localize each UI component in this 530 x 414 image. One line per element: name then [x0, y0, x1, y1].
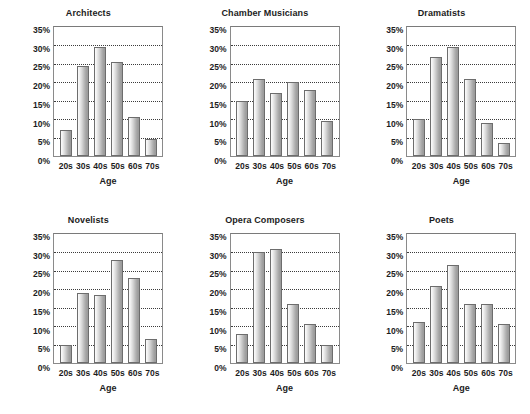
y-axis-tick-labels: 0%5%10%15%20%25%30%35%: [189, 226, 227, 371]
y-axis-tick-label: 35%: [12, 233, 50, 242]
bar: [145, 139, 157, 156]
y-axis-tick-label: 0%: [365, 157, 403, 166]
x-axis-tick-label: 50s: [287, 368, 299, 378]
bar-group: [231, 234, 339, 363]
bar: [430, 286, 442, 363]
bar: [128, 278, 140, 363]
chart-panel: Architects0%5%10%15%20%25%30%35%20s30s40…: [0, 0, 177, 207]
x-axis-tick-labels: 20s30s40s50s60s70s: [406, 161, 516, 171]
x-axis-tick-labels: 20s30s40s50s60s70s: [230, 368, 340, 378]
panel-title: Architects: [0, 8, 177, 18]
bar-group: [407, 27, 515, 156]
y-axis-tick-label: 25%: [365, 63, 403, 72]
y-axis-tick-label: 25%: [12, 270, 50, 279]
y-axis-tick-label: 20%: [12, 289, 50, 298]
x-axis-title: Age: [53, 176, 163, 186]
y-axis-tick-label: 5%: [365, 345, 403, 354]
y-axis-tick-label: 25%: [189, 63, 227, 72]
bar: [464, 79, 476, 156]
y-axis-tick-labels: 0%5%10%15%20%25%30%35%: [365, 226, 403, 371]
bar: [304, 324, 316, 363]
x-axis-tick-label: 40s: [93, 368, 105, 378]
y-axis-tick-label: 15%: [12, 308, 50, 317]
x-axis-tick-label: 60s: [481, 161, 493, 171]
bar: [481, 304, 493, 363]
bar: [498, 143, 510, 156]
x-axis-tick-label: 70s: [322, 161, 334, 171]
y-axis-tick-label: 20%: [189, 82, 227, 91]
panel-title: Novelists: [0, 215, 177, 225]
bar: [145, 339, 157, 363]
y-axis-tick-label: 30%: [189, 45, 227, 54]
x-axis-tick-label: 70s: [498, 161, 510, 171]
y-axis-tick-label: 5%: [189, 345, 227, 354]
y-axis-tick-label: 20%: [12, 82, 50, 91]
x-axis-tick-label: 20s: [235, 368, 247, 378]
plot-area: [230, 233, 340, 364]
bar: [253, 79, 265, 156]
bar: [321, 345, 333, 363]
y-axis-tick-label: 5%: [12, 345, 50, 354]
bar: [287, 82, 299, 156]
x-axis-tick-label: 70s: [145, 161, 157, 171]
bar: [60, 130, 72, 156]
bar: [287, 304, 299, 363]
y-axis-tick-label: 15%: [189, 101, 227, 110]
x-axis-tick-label: 30s: [429, 161, 441, 171]
bar: [94, 47, 106, 156]
bar: [236, 334, 248, 363]
bar: [321, 121, 333, 156]
y-axis-tick-label: 20%: [189, 289, 227, 298]
y-axis-tick-label: 0%: [189, 157, 227, 166]
y-axis-tick-label: 30%: [365, 252, 403, 261]
y-axis-tick-label: 25%: [365, 270, 403, 279]
bar: [77, 293, 89, 363]
small-multiples-bar-chart-figure: Architects0%5%10%15%20%25%30%35%20s30s40…: [0, 0, 530, 414]
bar: [430, 57, 442, 157]
x-axis-title: Age: [406, 383, 516, 393]
x-axis-tick-label: 50s: [464, 368, 476, 378]
x-axis-tick-label: 60s: [128, 368, 140, 378]
y-axis-tick-label: 0%: [12, 157, 50, 166]
y-axis-tick-label: 15%: [189, 308, 227, 317]
x-axis-tick-labels: 20s30s40s50s60s70s: [53, 161, 163, 171]
x-axis-title: Age: [230, 176, 340, 186]
x-axis-tick-label: 70s: [145, 368, 157, 378]
panel-title: Dramatists: [353, 8, 530, 18]
x-axis-tick-labels: 20s30s40s50s60s70s: [230, 161, 340, 171]
y-axis-tick-label: 30%: [12, 45, 50, 54]
bar: [447, 265, 459, 363]
bar-group: [54, 234, 162, 363]
chart-panel: Dramatists0%5%10%15%20%25%30%35%20s30s40…: [353, 0, 530, 207]
y-axis-tick-label: 0%: [12, 364, 50, 373]
bar: [60, 345, 72, 363]
bar-group: [54, 27, 162, 156]
y-axis-tick-label: 15%: [365, 308, 403, 317]
x-axis-tick-label: 30s: [76, 161, 88, 171]
x-axis-tick-label: 30s: [253, 368, 265, 378]
y-axis-tick-labels: 0%5%10%15%20%25%30%35%: [365, 19, 403, 164]
y-axis-tick-label: 30%: [365, 45, 403, 54]
plot-area: [53, 26, 163, 157]
bar: [447, 47, 459, 156]
x-axis-tick-label: 20s: [235, 161, 247, 171]
bar: [270, 93, 282, 156]
y-axis-tick-label: 10%: [189, 120, 227, 129]
panel-title: Opera Composers: [177, 215, 354, 225]
panel-title: Chamber Musicians: [177, 8, 354, 18]
x-axis-tick-label: 20s: [59, 161, 71, 171]
plot-area: [406, 26, 516, 157]
bar: [270, 249, 282, 363]
bar: [111, 62, 123, 156]
y-axis-tick-label: 35%: [12, 26, 50, 35]
x-axis-tick-label: 50s: [464, 161, 476, 171]
y-axis-tick-label: 5%: [189, 138, 227, 147]
y-axis-tick-label: 25%: [189, 270, 227, 279]
x-axis-tick-label: 30s: [429, 368, 441, 378]
y-axis-tick-label: 25%: [12, 63, 50, 72]
bar: [111, 260, 123, 363]
x-axis-title: Age: [53, 383, 163, 393]
bar: [304, 90, 316, 156]
y-axis-tick-label: 10%: [189, 327, 227, 336]
x-axis-tick-label: 60s: [305, 368, 317, 378]
